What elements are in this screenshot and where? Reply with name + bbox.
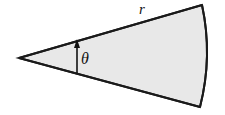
- sector-shape: [19, 5, 207, 107]
- circular-sector-graphic: [0, 0, 225, 115]
- radius-label: r: [139, 2, 145, 17]
- angle-label: θ: [81, 51, 89, 67]
- figure-container: r θ: [0, 0, 225, 115]
